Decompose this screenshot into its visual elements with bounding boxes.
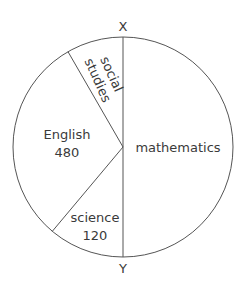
slice-label-english: English: [44, 127, 91, 142]
slice-value-science: 120: [83, 228, 108, 243]
slice-label-science: science: [71, 210, 120, 225]
label-y: Y: [118, 261, 127, 276]
label-x: X: [119, 19, 128, 34]
slice-value-english: 480: [55, 145, 80, 160]
pie-chart: X Y mathematics English 480 science 120 …: [0, 0, 243, 292]
slice-label-mathematics: mathematics: [135, 140, 220, 155]
